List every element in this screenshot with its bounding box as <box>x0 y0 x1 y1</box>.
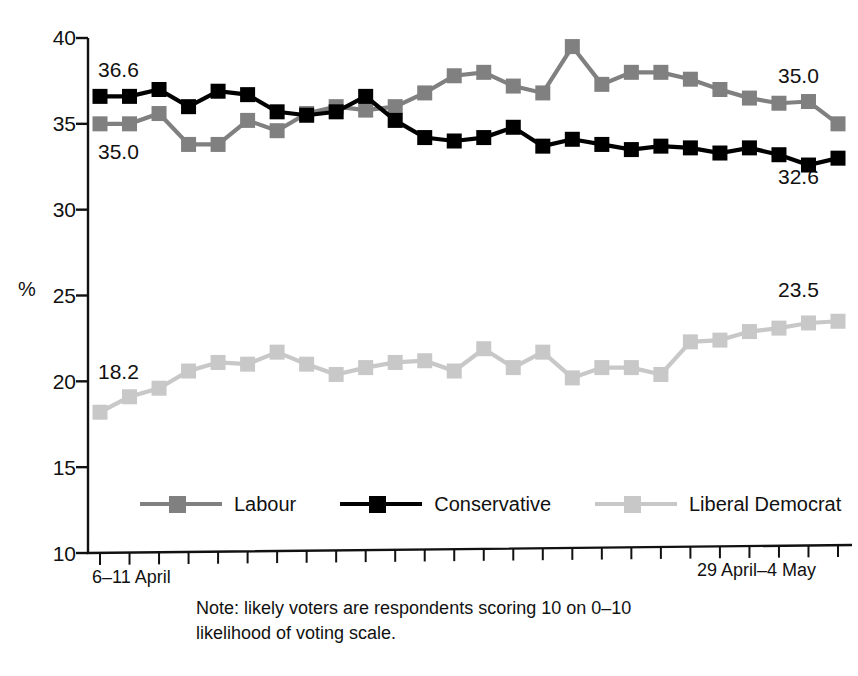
poll-tracker-figure: 40 35 30 25 20 15 10 % 36.6 35.0 35.0 32… <box>0 0 858 676</box>
data-point <box>270 123 285 138</box>
data-point <box>535 85 550 100</box>
data-point <box>565 370 580 385</box>
series-conservative <box>93 82 846 173</box>
data-point <box>358 89 373 104</box>
data-point <box>476 341 491 356</box>
data-point <box>683 72 698 87</box>
data-point <box>211 84 226 99</box>
data-point <box>624 142 639 157</box>
data-point <box>270 345 285 360</box>
data-point <box>240 357 255 372</box>
data-point <box>240 87 255 102</box>
data-point <box>152 381 167 396</box>
data-point <box>653 367 668 382</box>
data-point <box>624 360 639 375</box>
data-point <box>742 324 757 339</box>
axis-spine <box>88 38 852 553</box>
data-point <box>535 139 550 154</box>
chart-axes <box>76 38 852 565</box>
data-point <box>594 137 609 152</box>
data-point <box>181 99 196 114</box>
data-point <box>801 158 816 173</box>
data-point <box>93 116 108 131</box>
data-point <box>653 65 668 80</box>
data-point <box>771 96 786 111</box>
data-point <box>447 364 462 379</box>
data-point <box>831 151 846 166</box>
data-point <box>122 116 137 131</box>
data-point <box>476 65 491 80</box>
data-point <box>329 104 344 119</box>
series-liberal-democrat <box>93 314 846 420</box>
data-point <box>181 137 196 152</box>
data-point <box>831 314 846 329</box>
data-point <box>388 99 403 114</box>
data-point <box>624 65 639 80</box>
data-point <box>270 104 285 119</box>
data-point <box>801 94 816 109</box>
data-point <box>506 79 521 94</box>
data-point <box>712 333 727 348</box>
data-point <box>712 82 727 97</box>
data-point <box>93 89 108 104</box>
data-point <box>240 113 255 128</box>
data-point <box>683 334 698 349</box>
data-point <box>358 103 373 118</box>
data-point <box>122 389 137 404</box>
data-point <box>683 140 698 155</box>
data-point <box>211 137 226 152</box>
data-point <box>801 315 816 330</box>
data-point <box>299 108 314 123</box>
data-point <box>535 345 550 360</box>
data-point <box>506 360 521 375</box>
data-point <box>417 130 432 145</box>
data-point <box>653 139 668 154</box>
data-point <box>712 146 727 161</box>
data-point <box>565 132 580 147</box>
data-point <box>831 116 846 131</box>
data-point <box>122 89 137 104</box>
data-point <box>771 321 786 336</box>
data-point <box>388 355 403 370</box>
data-point <box>742 140 757 155</box>
data-point <box>594 360 609 375</box>
data-point <box>506 120 521 135</box>
data-point <box>742 91 757 106</box>
data-point <box>152 106 167 121</box>
data-point <box>771 147 786 162</box>
data-point <box>476 130 491 145</box>
data-point <box>417 353 432 368</box>
data-point <box>93 405 108 420</box>
data-point <box>447 68 462 83</box>
data-point <box>181 364 196 379</box>
data-point <box>447 134 462 149</box>
data-point <box>417 85 432 100</box>
data-point <box>565 39 580 54</box>
data-point <box>152 82 167 97</box>
data-point <box>594 77 609 92</box>
data-point <box>211 355 226 370</box>
data-point <box>299 357 314 372</box>
data-point <box>388 113 403 128</box>
data-point <box>358 360 373 375</box>
data-point <box>329 367 344 382</box>
chart-plot-area <box>0 0 858 676</box>
